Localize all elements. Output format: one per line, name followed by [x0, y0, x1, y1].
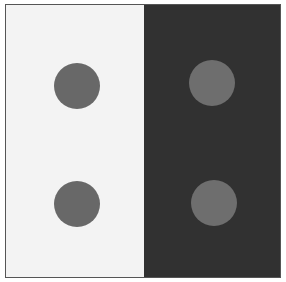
- gray-disc-top-right: [189, 60, 235, 106]
- illusion-figure: [0, 0, 286, 282]
- dark-panel: [144, 5, 281, 277]
- gray-disc-top-left: [54, 63, 100, 109]
- figure-frame: [5, 4, 281, 278]
- light-panel: [6, 5, 144, 277]
- gray-disc-bottom-right: [191, 180, 237, 226]
- gray-disc-bottom-left: [54, 181, 100, 227]
